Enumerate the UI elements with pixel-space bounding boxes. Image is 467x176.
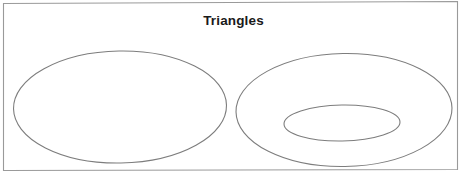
triangles-figure: Triangles xyxy=(0,0,467,176)
right-inner-ellipse xyxy=(284,104,401,142)
right-outer-ellipse xyxy=(235,52,453,169)
figure-title: Triangles xyxy=(0,13,467,29)
left-ellipse xyxy=(13,49,228,165)
